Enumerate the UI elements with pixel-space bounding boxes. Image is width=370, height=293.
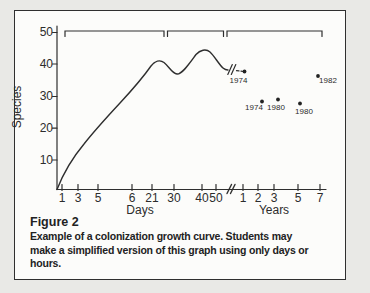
- y-tick-label-30: 30: [29, 90, 53, 103]
- x-axis-title-days: Days: [126, 204, 153, 217]
- figure-caption-body: Example of a colonization growth curve. …: [30, 230, 346, 271]
- top-bracket-days-1: [65, 31, 164, 37]
- point-label-1980-b: 1980: [295, 107, 313, 116]
- growth-curve: [57, 50, 228, 189]
- day-tick-30: 30: [167, 192, 180, 205]
- day-tick-1: 1: [59, 192, 66, 205]
- year-tick-1: 1: [240, 192, 247, 205]
- dashed-connector: [237, 71, 243, 72]
- scatter-points: [243, 70, 320, 106]
- point-label-1982: 1982: [319, 75, 337, 84]
- caption-line-2: make a simplified version of this graph …: [30, 244, 346, 258]
- x-axis-title-years: Years: [259, 204, 289, 217]
- y-tick-label-10: 10: [29, 154, 53, 167]
- y-axis-title: Species: [10, 86, 24, 129]
- point-1974-a: [243, 70, 247, 74]
- figure-caption-title: Figure 2: [30, 215, 79, 229]
- point-label-1980-a: 1980: [267, 103, 285, 112]
- y-tick-label-40: 40: [29, 58, 53, 71]
- day-tick-40: 40: [195, 192, 208, 205]
- year-tick-7: 7: [317, 192, 324, 205]
- year-tick-5: 5: [295, 192, 302, 205]
- y-tick-label-50: 50: [29, 26, 53, 39]
- point-1980-b: [298, 102, 302, 106]
- top-bracket-days-2: [168, 31, 224, 37]
- point-label-1974-b: 1974: [245, 102, 263, 111]
- top-bracket-years: [227, 31, 322, 37]
- caption-line-1: Example of a colonization growth curve. …: [30, 230, 346, 244]
- caption-line-3: hours.: [30, 257, 346, 271]
- point-1980-a: [276, 98, 280, 102]
- figure-screenshot: 50 40 30 20 10 Species 1 3 5 6 21 30 40 …: [0, 0, 370, 293]
- day-tick-50: 50: [209, 192, 222, 205]
- day-tick-5: 5: [95, 192, 102, 205]
- day-tick-3: 3: [75, 192, 82, 205]
- y-tick-label-20: 20: [29, 122, 53, 135]
- point-label-1974-a: 1974: [229, 75, 247, 84]
- curve-break-icon: [228, 65, 236, 75]
- y-tick-marks: [53, 33, 58, 161]
